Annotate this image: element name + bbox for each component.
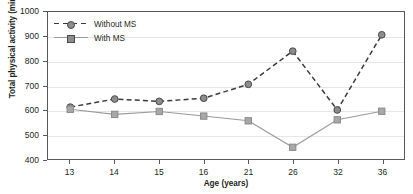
x-tick-label: 13	[65, 167, 74, 177]
x-tick-mark	[293, 160, 294, 164]
data-point-marker	[334, 107, 341, 114]
x-tick-mark	[338, 160, 339, 164]
y-tick-label: 400	[25, 156, 39, 165]
data-point-marker	[378, 31, 385, 38]
legend-item-with-ms: With MS	[54, 31, 174, 45]
data-point-marker	[379, 108, 385, 114]
data-point-marker	[111, 96, 118, 103]
x-tick-mark	[159, 160, 160, 164]
y-tick-label: 700	[25, 82, 39, 91]
x-tick-label: 32	[333, 167, 342, 177]
data-point-marker	[67, 106, 73, 112]
data-point-marker	[334, 117, 340, 123]
x-tick-mark	[248, 160, 249, 164]
data-point-marker	[245, 118, 251, 124]
x-tick-label: 16	[199, 167, 208, 177]
y-tick-label: 900	[25, 32, 39, 41]
x-tick-label: 26	[288, 167, 297, 177]
y-tick-label: 500	[25, 131, 39, 140]
data-point-marker	[200, 95, 207, 102]
x-tick-mark	[204, 160, 205, 164]
circle-marker-icon	[67, 21, 75, 29]
legend-label-with-ms: With MS	[88, 34, 125, 43]
x-axis-title: Age (years)	[47, 179, 405, 188]
chart-legend: Without MS With MS	[54, 17, 174, 45]
data-point-marker	[156, 108, 162, 114]
legend-swatch-without-ms	[54, 18, 88, 30]
legend-swatch-with-ms	[54, 32, 88, 44]
x-tick-mark	[383, 160, 384, 164]
square-marker-icon	[67, 35, 75, 43]
data-point-marker	[245, 81, 252, 88]
x-tick-label: 36	[378, 167, 387, 177]
x-tick-mark	[69, 160, 70, 164]
x-tick-label: 15	[154, 167, 163, 177]
legend-label-without-ms: Without MS	[88, 20, 136, 29]
x-axis: 1314151621263236	[47, 160, 405, 194]
data-point-marker	[289, 48, 296, 55]
x-tick-mark	[114, 160, 115, 164]
y-tick-label: 800	[25, 57, 39, 66]
x-tick-label: 21	[244, 167, 253, 177]
plot-area: Without MS With MS	[47, 11, 405, 160]
y-axis-title-text: Total physical activity (min · week	[8, 0, 17, 98]
chart-figure: 4005006007008009001000 Total physical ac…	[0, 0, 413, 194]
y-tick-label: 1000	[20, 7, 39, 16]
data-point-marker	[201, 113, 207, 119]
x-tick-label: 14	[109, 167, 118, 177]
data-point-marker	[112, 111, 118, 117]
data-point-marker	[290, 144, 296, 150]
legend-item-without-ms: Without MS	[54, 17, 174, 31]
y-tick-label: 600	[25, 106, 39, 115]
data-point-marker	[156, 98, 163, 105]
y-axis-title: Total physical activity (min · week-1)	[7, 0, 18, 104]
